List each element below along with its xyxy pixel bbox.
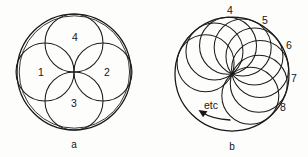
panel-b-caption: b xyxy=(229,141,235,152)
panel-b-label-7: 7 xyxy=(291,72,297,84)
panel-a-label-3: 3 xyxy=(71,97,77,109)
panel-b-direction-arrow-head xyxy=(199,110,208,117)
panel-a-petal-circle-4 xyxy=(45,14,103,72)
panel-a-label-4: 4 xyxy=(72,31,78,43)
panel-b-label-5: 5 xyxy=(262,14,268,26)
panel-a-caption: a xyxy=(71,139,77,150)
panel-b-label-6: 6 xyxy=(286,39,292,51)
figure-sheet: 4 1 2 3 a 4 5 6 7 8 etc b xyxy=(0,0,308,157)
panel-b-label-4: 4 xyxy=(227,4,233,16)
panel-a-label-2: 2 xyxy=(104,66,110,78)
panel-b-diagram: 4 5 6 7 8 etc b xyxy=(154,0,308,157)
panel-a-label-1: 1 xyxy=(38,66,44,78)
panel-b-pivot-point xyxy=(230,72,233,75)
panel-a-petal-circle-1 xyxy=(16,43,74,101)
panel-a-centre-point xyxy=(73,71,75,73)
panel-b-rolling-circle-7 xyxy=(230,55,287,112)
panel-b-etc-label: etc xyxy=(204,99,218,111)
panel-b-label-8: 8 xyxy=(280,101,286,113)
panel-a-diagram: 4 1 2 3 a xyxy=(0,0,154,157)
panel-a-petal-circle-2 xyxy=(74,43,132,101)
